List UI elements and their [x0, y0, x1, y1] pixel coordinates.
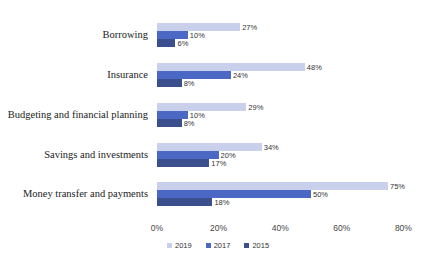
bar-2017: [157, 190, 311, 198]
bar-2015: [157, 119, 182, 127]
category-label: Insurance: [107, 69, 148, 81]
legend-item-2015: 2015: [244, 241, 269, 250]
x-tick-label: 80%: [395, 223, 412, 233]
value-label: 34%: [264, 144, 279, 152]
bar-2019: [157, 103, 246, 111]
x-tick-label: 0%: [151, 223, 163, 233]
legend-label: 2019: [175, 241, 192, 250]
bar-2019: [157, 63, 305, 71]
category-label: Budgeting and financial planning: [8, 109, 148, 121]
bar-2017: [157, 111, 188, 119]
bar-2019: [157, 182, 388, 190]
bar-2015: [157, 39, 175, 47]
bar-2017: [157, 71, 231, 79]
bar-2015: [157, 198, 212, 206]
legend-swatch-icon: [167, 243, 172, 248]
value-label: 75%: [390, 183, 405, 191]
x-tick-label: 60%: [333, 223, 350, 233]
legend: 201920172015: [167, 241, 269, 250]
bar-2019: [157, 23, 240, 31]
legend-item-2017: 2017: [206, 241, 231, 250]
value-label: 50%: [313, 191, 328, 199]
legend-item-2019: 2019: [167, 241, 192, 250]
legend-label: 2015: [252, 241, 269, 250]
category-label: Savings and investments: [44, 149, 148, 161]
bar-2015: [157, 159, 209, 167]
bar-2017: [157, 151, 219, 159]
bar-2015: [157, 79, 182, 87]
legend-swatch-icon: [244, 243, 249, 248]
bar-2019: [157, 143, 262, 151]
bar-2017: [157, 31, 188, 39]
value-label: 6%: [177, 40, 188, 48]
legend-label: 2017: [214, 241, 231, 250]
horizontal-bar-chart: Borrowing27%10%6%Insurance48%24%8%Budget…: [0, 0, 425, 264]
value-label: 18%: [214, 199, 229, 207]
value-label: 8%: [184, 120, 195, 128]
value-label: 29%: [248, 104, 263, 112]
category-label: Money transfer and payments: [23, 188, 148, 200]
value-label: 17%: [211, 160, 226, 168]
value-label: 27%: [242, 24, 257, 32]
value-label: 8%: [184, 80, 195, 88]
legend-swatch-icon: [206, 243, 211, 248]
x-tick-label: 20%: [210, 223, 227, 233]
category-label: Borrowing: [103, 29, 149, 41]
value-label: 10%: [190, 32, 205, 40]
value-label: 24%: [233, 72, 248, 80]
x-tick-label: 40%: [272, 223, 289, 233]
value-label: 48%: [307, 64, 322, 72]
